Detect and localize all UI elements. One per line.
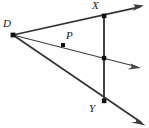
figure-canvas bbox=[0, 0, 149, 128]
point-label-x: X bbox=[92, 0, 99, 11]
ray-d-p-line bbox=[13, 35, 137, 67]
ray-d-y-arrowhead bbox=[131, 118, 145, 126]
point-label-d: D bbox=[3, 18, 11, 29]
point-dot-p bbox=[61, 43, 65, 47]
ray-d-y bbox=[13, 35, 146, 126]
ray-d-p bbox=[13, 35, 141, 70]
point-dot-x bbox=[102, 14, 107, 19]
point-dot-y bbox=[102, 99, 107, 104]
ray-d-x bbox=[13, 4, 144, 35]
point-label-p: P bbox=[66, 30, 73, 41]
point-label-y: Y bbox=[89, 103, 95, 114]
point-dot-d bbox=[11, 33, 16, 38]
point-dot-m bbox=[102, 56, 106, 60]
ray-d-x-line bbox=[13, 7, 140, 35]
geometry-figure: D X P Y bbox=[0, 0, 149, 128]
ray-d-y-line bbox=[13, 35, 141, 122]
